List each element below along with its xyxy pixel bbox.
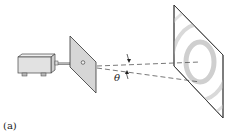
figure-caption: (a) [3,120,17,131]
pinhole [81,61,85,65]
laser-source [18,54,58,76]
theta-label: θ [114,72,120,83]
diffraction-diagram [0,0,234,138]
aperture-screen [70,36,96,93]
observation-screen [160,5,234,118]
angle-indicator [125,54,131,79]
